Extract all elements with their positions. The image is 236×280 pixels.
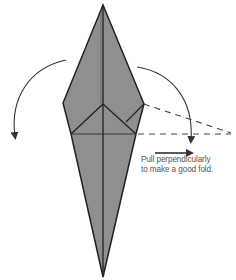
caption-line-1: Pull perpendicularly: [141, 155, 236, 165]
dashed-projection-lines: [138, 104, 231, 134]
right-fold-arrow-icon: [137, 67, 191, 140]
origami-diagram: [0, 0, 236, 280]
folded-paper-shape: [63, 5, 144, 277]
instruction-caption: Pull perpendicularly to make a good fold…: [141, 155, 236, 175]
left-fold-arrow-icon: [14, 60, 66, 136]
caption-line-2: to make a good fold.: [141, 165, 236, 175]
